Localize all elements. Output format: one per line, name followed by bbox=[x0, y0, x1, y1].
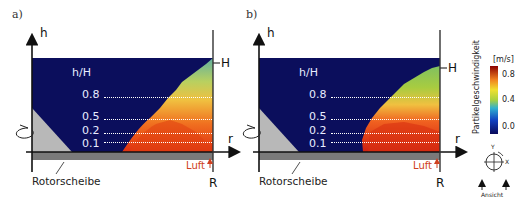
panel-a-radius-label: R bbox=[209, 176, 217, 190]
panel-a-H-marker: H bbox=[221, 56, 230, 70]
panel-a-tick-08: 0.8 bbox=[82, 88, 100, 101]
colorbar-tick-mid: 0.4 bbox=[502, 95, 515, 104]
panel-a-line-01 bbox=[104, 142, 212, 143]
panel-a-tick-02: 0.2 bbox=[82, 124, 100, 137]
orientation-y-label: Y bbox=[491, 143, 495, 150]
panel-a-label: a) bbox=[12, 8, 23, 21]
panel-a-r-axis-label: r bbox=[228, 132, 233, 146]
panel-a-ratio-label: h/H bbox=[72, 66, 91, 79]
panel-a-rotor-label: Rotorscheibe bbox=[32, 175, 101, 187]
panel-b-line-02 bbox=[331, 133, 439, 134]
panel-b-air-label: Luft bbox=[413, 160, 432, 171]
colorbar-tick-high: 0.8 bbox=[502, 70, 515, 79]
panel-b-line-01 bbox=[331, 142, 439, 143]
orientation-icon bbox=[482, 152, 506, 190]
panel-b-line-05 bbox=[331, 119, 439, 120]
panel-b-tick-08: 0.8 bbox=[309, 88, 327, 101]
figure-graphics bbox=[0, 0, 529, 202]
panel-b-h-axis-label: h bbox=[267, 26, 275, 40]
panel-a-graphics bbox=[16, 30, 238, 174]
panel-b-radius-label: R bbox=[436, 176, 444, 190]
panel-b-line-08 bbox=[331, 97, 439, 98]
panel-b-label: b) bbox=[246, 8, 257, 21]
panel-a-tick-01: 0.1 bbox=[82, 137, 100, 150]
panel-b-graphics bbox=[243, 30, 465, 174]
panel-b-rotor-label: Rotorscheibe bbox=[259, 175, 328, 187]
panel-a-air-label: Luft bbox=[186, 160, 205, 171]
panel-b-r-axis-label: r bbox=[455, 132, 460, 146]
panel-a-line-08 bbox=[104, 97, 212, 98]
colorbar-unit: [m/s] bbox=[493, 55, 514, 64]
panel-b-tick-05: 0.5 bbox=[309, 110, 327, 123]
panel-a-line-02 bbox=[104, 133, 212, 134]
panel-a-line-05 bbox=[104, 119, 212, 120]
colorbar-tick-low: 0.0 bbox=[502, 122, 515, 131]
colorbar-title: Partikelgeschwindigkeit bbox=[472, 40, 481, 134]
orientation-view-label: Ansicht bbox=[481, 191, 503, 198]
panel-b-tick-01: 0.1 bbox=[309, 137, 327, 150]
panel-b-H-marker: H bbox=[448, 61, 457, 75]
panel-a-h-axis-label: h bbox=[40, 26, 48, 40]
panel-b-ratio-label: h/H bbox=[299, 66, 318, 79]
orientation-x-label: X bbox=[505, 158, 509, 165]
panel-b-tick-02: 0.2 bbox=[309, 124, 327, 137]
panel-a-tick-05: 0.5 bbox=[82, 110, 100, 123]
colorbar-gradient bbox=[490, 66, 498, 134]
